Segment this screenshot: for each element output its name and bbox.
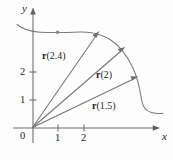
x-axis-label: x (162, 131, 167, 142)
origin-label: 0 (20, 131, 25, 142)
y-axis-arrowhead (30, 8, 36, 15)
vector-label-r-2-4: r(2.4) (42, 51, 66, 61)
y-tick-label-2: 2 (20, 67, 25, 78)
curve-point-marker (56, 31, 59, 34)
x-tick-label-2: 2 (81, 133, 86, 144)
vector-label-r-2-4-arg: (2.4) (46, 50, 65, 61)
x-tick-label-1: 1 (55, 133, 60, 144)
vector-r-2-arrowhead (118, 47, 126, 53)
vector-label-r-1-5: r(1.5) (92, 101, 116, 111)
vector-curve-figure: y x 0 1 2 1 2 r(2.4) r(2) r(1.5) (0, 0, 173, 160)
y-axis-label: y (22, 3, 27, 14)
x-axis-arrowhead (153, 125, 160, 131)
vector-r-1-5-shaft (33, 80, 133, 128)
vector-label-r-2-arg: (2) (100, 69, 112, 80)
vector-label-r-1-5-arg: (1.5) (96, 100, 115, 111)
vector-r-2-shaft (33, 52, 121, 128)
y-tick-label-1: 1 (20, 95, 25, 106)
figure-canvas (0, 0, 173, 160)
vector-label-r-2: r(2) (96, 70, 112, 80)
